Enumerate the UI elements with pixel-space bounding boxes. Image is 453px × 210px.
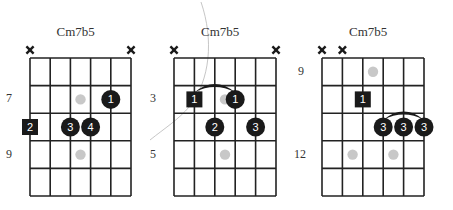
chord-title: Cm7b5 xyxy=(349,24,387,40)
finger-number: 1 xyxy=(108,93,114,105)
fret-marker-dot xyxy=(75,94,85,104)
chord-diagram: 1333 xyxy=(318,46,433,196)
chord-title: Cm7b5 xyxy=(201,24,239,40)
chord-diagram: 1123 xyxy=(170,46,279,196)
fret-marker-dot xyxy=(368,67,378,77)
root-finger-marker: 2 xyxy=(22,119,38,135)
muted-x-icon xyxy=(272,46,279,53)
fret-marker-dot xyxy=(388,149,398,159)
muted-x-icon xyxy=(318,46,325,53)
finger-marker: 3 xyxy=(415,118,434,137)
finger-marker: 3 xyxy=(246,118,265,137)
finger-number: 1 xyxy=(191,93,197,105)
finger-marker: 2 xyxy=(205,118,224,137)
finger-marker: 3 xyxy=(374,118,393,137)
muted-x-icon xyxy=(127,46,134,53)
muted-x-icon xyxy=(339,46,346,53)
finger-number: 2 xyxy=(212,121,218,133)
finger-number: 3 xyxy=(380,121,386,133)
muted-x-icon xyxy=(26,46,33,53)
finger-number: 3 xyxy=(421,121,427,133)
fret-marker-dot xyxy=(75,149,85,159)
finger-number: 3 xyxy=(67,121,73,133)
finger-number: 1 xyxy=(360,93,366,105)
finger-number: 4 xyxy=(88,121,94,133)
fret-number-label: 9 xyxy=(298,64,304,79)
fret-number-label: 3 xyxy=(150,91,156,106)
muted-x-icon xyxy=(170,46,177,53)
fret-number-label: 9 xyxy=(6,147,12,162)
finger-number: 3 xyxy=(253,121,259,133)
chord-title: Cm7b5 xyxy=(57,24,95,40)
stray-line xyxy=(150,2,209,140)
root-finger-marker: 1 xyxy=(355,91,371,107)
fret-number-label: 5 xyxy=(150,147,156,162)
fret-number-label: 7 xyxy=(6,91,12,106)
finger-number: 3 xyxy=(401,121,407,133)
finger-marker: 1 xyxy=(226,90,245,109)
fret-marker-dot xyxy=(220,149,230,159)
finger-marker: 4 xyxy=(81,118,100,137)
finger-marker: 1 xyxy=(101,90,120,109)
finger-marker: 3 xyxy=(394,118,413,137)
finger-number: 2 xyxy=(27,121,33,133)
chord-diagram: 1234 xyxy=(22,46,135,196)
fret-number-label: 12 xyxy=(294,147,306,162)
root-finger-marker: 1 xyxy=(186,91,202,107)
fret-marker-dot xyxy=(347,149,357,159)
finger-number: 1 xyxy=(232,93,238,105)
finger-marker: 3 xyxy=(61,118,80,137)
